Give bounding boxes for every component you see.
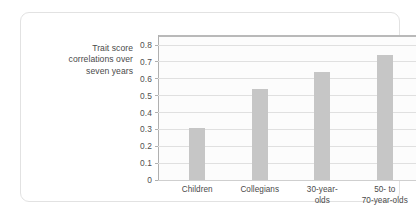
x-axis-tick-label: Children <box>166 185 229 196</box>
y-axis-tick-label: 0 <box>147 175 152 185</box>
y-axis-tick-label: 0.8 <box>140 40 152 50</box>
y-axis-tick-mark <box>155 45 158 46</box>
bar <box>189 128 205 180</box>
y-axis-tick-mark <box>155 78 158 79</box>
x-axis-tick-label-line: Children <box>166 185 229 196</box>
y-axis-tick-label: 0.7 <box>140 57 152 67</box>
x-axis-tick-label-line: 70-year-olds <box>354 196 417 207</box>
chart-title-line-1: Trait score <box>49 43 133 54</box>
chart-card: Trait score correlations over seven year… <box>20 12 400 202</box>
x-axis-tick-label-line: Collegians <box>229 185 292 196</box>
x-axis-tick-label-line: 30-year- <box>291 185 354 196</box>
plot-area: 00.10.20.30.40.50.60.70.8 ChildrenColleg… <box>158 35 416 180</box>
chart-title-line-3: seven years <box>49 66 133 77</box>
y-axis-tick-label: 0.2 <box>140 141 152 151</box>
y-axis-tick-mark <box>155 129 158 130</box>
plot-top-rule <box>158 35 416 37</box>
bar <box>252 89 268 180</box>
chart-screenshot: Trait score correlations over seven year… <box>0 0 419 215</box>
chart-title: Trait score correlations over seven year… <box>49 43 133 77</box>
y-axis-tick-mark <box>155 180 158 181</box>
y-axis-tick-label: 0.6 <box>140 74 152 84</box>
y-axis-tick-label: 0.1 <box>140 158 152 168</box>
gridline <box>158 45 416 46</box>
y-axis-tick-mark <box>155 112 158 113</box>
bar <box>377 55 393 180</box>
y-axis-tick-mark <box>155 146 158 147</box>
y-axis-tick-label: 0.4 <box>140 108 152 118</box>
y-axis-tick-mark <box>155 163 158 164</box>
bar <box>314 72 330 180</box>
chart-title-line-2: correlations over <box>49 54 133 65</box>
y-axis-tick-mark <box>155 95 158 96</box>
x-axis-tick-label-line: 50- to <box>354 185 417 196</box>
y-axis-tick-label: 0.3 <box>140 124 152 134</box>
y-axis-tick-label: 0.5 <box>140 91 152 101</box>
y-axis-line <box>158 35 159 180</box>
x-axis-tick-label: Collegians <box>229 185 292 196</box>
y-axis-tick-mark <box>155 61 158 62</box>
x-axis-tick-label: 50- to70-year-olds <box>354 185 417 206</box>
x-axis-tick-label: 30-year-olds <box>291 185 354 206</box>
x-axis-tick-label-line: olds <box>291 196 354 207</box>
